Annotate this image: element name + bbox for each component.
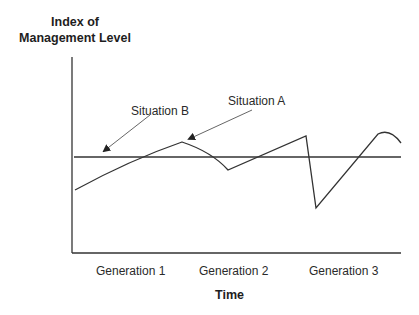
situation-a-arrow xyxy=(189,110,252,139)
situation-b-arrow xyxy=(104,115,150,151)
situation-a-label: Situation A xyxy=(228,94,285,108)
x-tick-generation-2: Generation 2 xyxy=(199,264,268,278)
x-axis-label: Time xyxy=(0,288,419,302)
management-level-curve xyxy=(75,132,401,208)
situation-b-label: Situation B xyxy=(131,104,189,118)
x-tick-generation-1: Generation 1 xyxy=(96,264,165,278)
x-tick-generation-3: Generation 3 xyxy=(309,264,378,278)
